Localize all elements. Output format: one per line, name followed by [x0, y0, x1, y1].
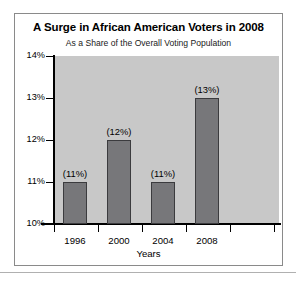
x-axis-title: Years [15, 248, 282, 259]
y-axis-label-10: 10% [15, 218, 45, 228]
bottom-divider [0, 272, 296, 273]
x-tick-mark [274, 225, 275, 232]
bar-label-2004: (11%) [140, 168, 186, 179]
y-axis-label-14: 14% [15, 50, 45, 60]
y-axis-label-11: 11% [15, 176, 45, 186]
x-tick-mark [186, 225, 187, 232]
y-axis-label-12: 12% [15, 134, 45, 144]
bar-2008 [195, 98, 219, 224]
bar-2004 [151, 182, 175, 224]
y-tick-mark [46, 182, 54, 183]
bar-1996 [63, 182, 87, 224]
y-axis-label-13: 13% [15, 92, 45, 102]
y-tick-mark [46, 140, 54, 141]
x-axis-label-1996: 1996 [52, 235, 98, 246]
chart-title: A Surge in African American Voters in 20… [15, 21, 282, 33]
x-tick-mark [230, 225, 231, 232]
x-tick-mark [98, 225, 99, 232]
y-tick-mark [46, 56, 54, 57]
x-tick-mark [142, 225, 143, 232]
x-axis-label-2004: 2004 [140, 235, 186, 246]
chart-page: A Surge in African American Voters in 20… [0, 0, 296, 281]
x-axis-label-2000: 2000 [96, 235, 142, 246]
x-axis-label-2008: 2008 [184, 235, 230, 246]
y-tick-mark [46, 224, 54, 225]
bar-label-2000: (12%) [96, 126, 142, 137]
chart-subtitle: As a Share of the Overall Voting Populat… [15, 38, 282, 48]
chart-figure-frame: A Surge in African American Voters in 20… [14, 13, 283, 266]
bar-label-1996: (11%) [52, 168, 98, 179]
bar-2000 [107, 140, 131, 224]
x-tick-mark [54, 225, 55, 232]
bar-label-2008: (13%) [184, 84, 230, 95]
y-tick-mark [46, 98, 54, 99]
